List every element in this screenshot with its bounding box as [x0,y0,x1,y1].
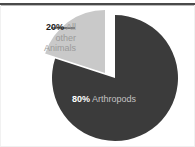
pie-label-other-animals-line1: 20% All [4,22,76,33]
pie-chart-figure: 20% All other Animals 80% Arthropods [0,0,195,147]
pie-label-arthropods: 80% Arthropods [72,94,136,105]
pie-label-arthropods-name: Arthropods [90,94,136,104]
pie-chart-plot-area: 20% All other Animals 80% Arthropods [0,6,195,147]
pie-label-other-animals-name1: All [64,22,76,32]
pie-label-other-animals-percent: 20% [46,22,64,32]
pie-label-arthropods-percent: 80% [72,94,90,104]
pie-label-other-animals-line2: other [4,33,76,44]
pie-label-other-animals-line3: Animals [4,43,76,54]
pie-label-other-animals: 20% All other Animals [4,22,76,54]
